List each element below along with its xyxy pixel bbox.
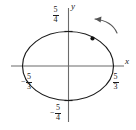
plot-canvas <box>0 0 136 130</box>
direction-arrow-curve <box>95 19 117 33</box>
fraction-numerator: 5 <box>53 6 58 15</box>
fraction-stack: 5 3 <box>113 73 119 91</box>
y-intercept-negative-label: − 5 4 <box>50 104 61 122</box>
fraction-numerator: 5 <box>27 73 32 82</box>
fraction-denominator: 4 <box>53 16 58 25</box>
fraction-numerator: 5 <box>113 73 118 82</box>
x-intercept-negative-label: − 5 3 <box>21 73 32 91</box>
fraction-denominator: 4 <box>56 114 61 123</box>
ellipse-figure: y x 5 4 − 5 4 − 5 3 5 3 <box>0 0 136 130</box>
fraction-denominator: 3 <box>27 83 32 92</box>
fraction-numerator: 5 <box>56 104 61 113</box>
y-axis-label: y <box>71 2 75 11</box>
x-intercept-positive-label: 5 3 <box>112 73 119 91</box>
fraction-stack: 5 4 <box>55 104 61 122</box>
y-intercept-positive-label: 5 4 <box>52 6 59 24</box>
traced-point-marker <box>90 36 94 40</box>
fraction-stack: 5 3 <box>26 73 32 91</box>
fraction-stack: 5 4 <box>53 6 59 24</box>
fraction-denominator: 3 <box>113 83 118 92</box>
direction-arrow-head-icon <box>95 17 102 23</box>
x-axis-label: x <box>125 57 129 66</box>
